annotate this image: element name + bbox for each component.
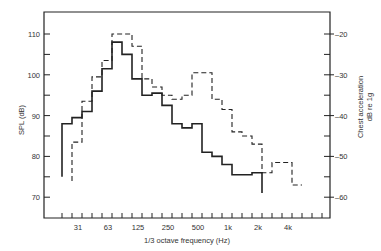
y2-tick-label: –60 <box>335 193 348 202</box>
x-tick-label: 31 <box>74 223 82 232</box>
y-tick-label: 70 <box>32 193 40 202</box>
y-tick-label: 100 <box>27 71 40 80</box>
x-tick-label: 4k <box>284 223 292 232</box>
plot-frame <box>44 12 330 218</box>
step-chart: 708090100110 –20–30–40–50–60 31631252505… <box>0 0 381 251</box>
y2-tick-label: –40 <box>335 112 348 121</box>
x-axis: 31631252505001k2k4k <box>62 213 322 232</box>
data-series <box>62 34 302 193</box>
left-axis: 708090100110 <box>27 30 50 202</box>
chest-acceleration-series <box>72 34 302 185</box>
x-axis-title: 1/3 octave frequency (Hz) <box>144 236 230 245</box>
plot-border <box>44 12 330 218</box>
right-axis-title-line1: Chest acceleration <box>356 76 365 138</box>
y2-tick-label: –50 <box>335 152 348 161</box>
x-tick-label: 63 <box>104 223 112 232</box>
x-tick-label: 500 <box>192 223 205 232</box>
x-tick-label: 1k <box>224 223 232 232</box>
x-tick-label: 250 <box>162 223 175 232</box>
right-axis: –20–30–40–50–60 <box>324 30 348 202</box>
y-tick-label: 90 <box>32 112 40 121</box>
y-tick-label: 110 <box>28 30 40 39</box>
y2-tick-label: –30 <box>335 71 348 80</box>
right-axis-title-line2: dB re 1g <box>365 93 374 121</box>
x-tick-label: 2k <box>254 223 262 232</box>
x-tick-label: 125 <box>132 223 145 232</box>
left-axis-title: SPL (dB) <box>17 104 26 135</box>
y2-tick-label: –20 <box>335 30 348 39</box>
y-tick-label: 80 <box>32 152 40 161</box>
